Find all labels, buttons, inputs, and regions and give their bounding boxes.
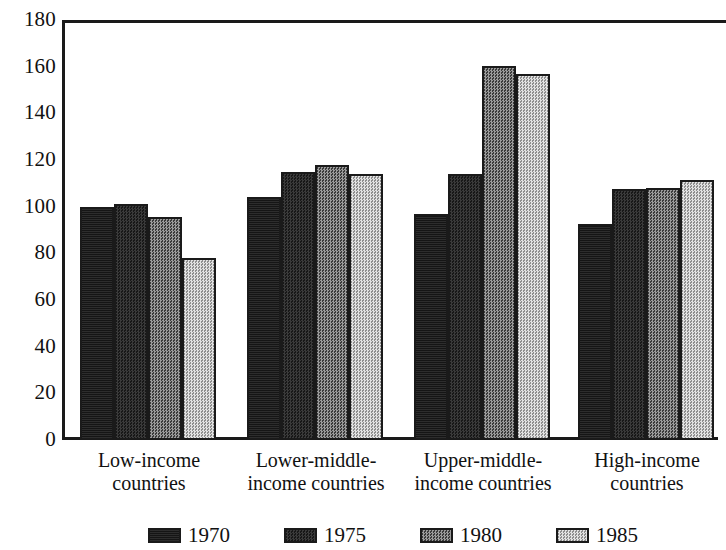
x-axis-category-label: High-incomecountries [527, 449, 726, 495]
category-label-line: countries [527, 472, 726, 495]
bar [414, 214, 448, 440]
legend-entry-1970[interactable]: 1970 [148, 522, 230, 548]
legend-swatch-icon [284, 528, 317, 543]
bar [578, 224, 612, 440]
bar [182, 258, 216, 440]
bar [482, 66, 516, 440]
bar [114, 204, 148, 440]
legend-label: 1970 [188, 525, 230, 546]
legend-entry-1985[interactable]: 1985 [556, 522, 638, 548]
bar [247, 197, 281, 440]
bar [448, 174, 482, 440]
legend-swatch-icon [556, 528, 589, 543]
bar [148, 217, 182, 440]
bar [680, 180, 714, 440]
x-axis-category-labels: Low-incomecountriesLower-middle-income c… [0, 449, 726, 507]
bar [281, 172, 315, 440]
bar [612, 189, 646, 440]
bar-chart-figure: 020406080100120140160180 Low-incomecount… [0, 0, 726, 550]
bar [516, 74, 550, 440]
legend-entry-1975[interactable]: 1975 [284, 522, 366, 548]
legend-label: 1980 [460, 525, 502, 546]
legend-entry-1980[interactable]: 1980 [420, 522, 502, 548]
legend-label: 1985 [596, 525, 638, 546]
category-label-line: High-income [527, 449, 726, 472]
bars-layer [0, 0, 726, 443]
bar [646, 188, 680, 440]
chart-legend: 1970197519801985 [0, 522, 726, 550]
bar [80, 207, 114, 440]
bar [349, 174, 383, 440]
legend-label: 1975 [324, 525, 366, 546]
legend-swatch-icon [148, 528, 181, 543]
bar [315, 165, 349, 440]
legend-swatch-icon [420, 528, 453, 543]
